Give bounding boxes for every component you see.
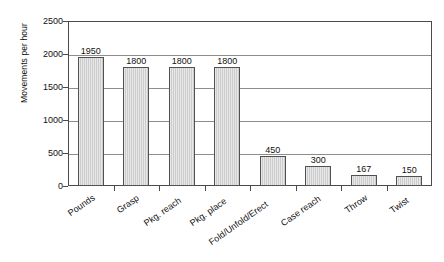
y-tick-mark [63,153,68,154]
y-tick-mark [63,21,68,22]
x-tick-label: Grasp [115,193,141,215]
y-tick-mark [63,87,68,88]
x-tick-label: Case reach [279,194,322,229]
x-tick-label: Throw [343,193,369,216]
y-tick-mark [63,120,68,121]
x-tick-label: Pkg. reach [142,196,183,229]
x-tick-mark [341,186,342,191]
x-tick-label: Pkg. place [188,196,228,228]
x-tick-mark [205,186,206,191]
x-tick-label: Twist [388,195,411,215]
x-tick-mark [114,186,115,191]
y-tick-mark [63,186,68,187]
x-tick-mark [296,186,297,191]
bar-chart: Movements per hour 05001000150020002500 … [0,0,444,262]
x-tick-label: Pounds [66,192,97,218]
x-tick-mark [250,186,251,191]
x-tick-mark [387,186,388,191]
y-tick-mark [63,54,68,55]
x-axis-labels: PoundsGraspPkg. reachPkg. placeFold/Unfo… [0,0,444,262]
x-tick-mark [159,186,160,191]
